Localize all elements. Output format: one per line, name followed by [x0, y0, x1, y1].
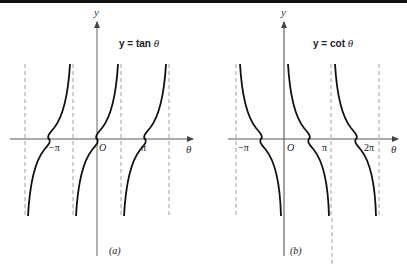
- cot-curves: [240, 64, 376, 216]
- y-axis-label: y: [280, 6, 286, 18]
- tick-origin: O: [287, 142, 294, 153]
- function-title: y = cot θ: [313, 37, 354, 49]
- asymptotes: [236, 64, 379, 266]
- x-axis-label: θ: [186, 143, 192, 155]
- trig-figure: y θ y = tan θ −π O π (a) y θ y = cot θ −…: [0, 0, 407, 266]
- tick-neg-pi: −π: [238, 142, 249, 153]
- tick-neg-pi: −π: [49, 142, 60, 153]
- panel-b-cot: y θ y = cot θ −π O π 2π (b): [228, 6, 398, 266]
- tick-pi: π: [141, 142, 146, 153]
- y-axis-label: y: [93, 6, 99, 18]
- panel-a-tan: y θ y = tan θ −π O π (a): [10, 6, 193, 257]
- tick-origin: O: [99, 142, 106, 153]
- caption-b: (b): [290, 245, 302, 257]
- function-title: y = tan θ: [119, 37, 160, 49]
- x-axis-label: θ: [391, 143, 397, 155]
- caption-a: (a): [109, 245, 121, 257]
- tick-pi: π: [322, 142, 327, 153]
- tick-2pi: 2π: [364, 142, 374, 153]
